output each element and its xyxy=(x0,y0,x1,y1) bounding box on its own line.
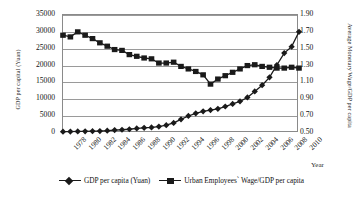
data-point xyxy=(75,128,81,134)
data-point xyxy=(134,54,140,59)
y-tick-left: 5000 xyxy=(19,111,55,119)
data-point xyxy=(112,47,118,52)
data-point xyxy=(104,128,110,134)
data-point xyxy=(82,128,88,134)
data-point xyxy=(259,64,265,69)
legend-item-gdp[interactable]: GDP per capita (Yuan) xyxy=(59,176,150,185)
y-tick-right: 1.10 xyxy=(300,77,330,85)
data-point xyxy=(89,128,95,134)
legend-label-wage-ratio: Urban Employees` Wage/GDP per capita xyxy=(184,176,304,185)
data-point xyxy=(178,116,184,122)
x-tick: 1986 xyxy=(130,135,147,152)
data-point xyxy=(60,33,66,38)
data-point xyxy=(267,65,273,70)
x-tick: 1994 xyxy=(189,135,206,152)
data-point xyxy=(141,125,147,131)
data-point xyxy=(193,69,199,74)
y-tick-right: 0.70 xyxy=(300,111,330,119)
y-tick-left: 30000 xyxy=(19,27,55,35)
diamond-marker-icon xyxy=(59,176,81,185)
x-tick: 1980 xyxy=(86,135,103,152)
data-point xyxy=(104,44,110,49)
data-point xyxy=(200,108,206,114)
data-point xyxy=(207,107,213,113)
data-point xyxy=(149,56,155,61)
x-tick: 2004 xyxy=(263,135,280,152)
x-tick: 2000 xyxy=(234,135,251,152)
data-point xyxy=(119,48,125,53)
y-tick-left: 0 xyxy=(19,128,55,136)
y-tick-left: 35000 xyxy=(19,10,55,18)
data-point xyxy=(222,73,228,78)
data-point xyxy=(126,126,132,132)
legend-item-wage-ratio[interactable]: Urban Employees` Wage/GDP per capita xyxy=(159,176,304,185)
y-tick-right: 1.90 xyxy=(300,10,330,18)
x-tick: 1982 xyxy=(101,135,118,152)
data-point xyxy=(289,65,295,70)
x-axis-title: Year xyxy=(311,161,324,169)
y-tick-right: 1.70 xyxy=(300,27,330,35)
x-tick: 1990 xyxy=(160,135,177,152)
data-point xyxy=(60,129,66,135)
data-point xyxy=(141,55,147,60)
data-point xyxy=(230,101,236,107)
y-tick-left: 10000 xyxy=(19,94,55,102)
x-tick: 1998 xyxy=(219,135,236,152)
data-point xyxy=(237,98,243,104)
data-point xyxy=(215,106,221,112)
data-point xyxy=(97,128,103,134)
x-tick: 1992 xyxy=(175,135,192,152)
data-point xyxy=(75,29,81,34)
data-point xyxy=(67,128,73,134)
legend-label-gdp: GDP per capita (Yuan) xyxy=(84,176,150,185)
data-point xyxy=(90,36,96,41)
data-point xyxy=(97,40,103,45)
plot-area xyxy=(62,14,298,132)
data-point xyxy=(163,122,169,128)
data-point xyxy=(185,113,191,119)
data-point xyxy=(178,64,184,69)
data-point xyxy=(68,34,74,39)
x-tick: 2008 xyxy=(293,135,310,152)
data-point xyxy=(156,124,162,130)
data-point xyxy=(252,62,258,67)
series-layer xyxy=(63,15,299,133)
y-tick-left: 25000 xyxy=(19,44,55,52)
data-point xyxy=(156,60,162,65)
data-point xyxy=(245,63,251,68)
y-tick-right: 1.30 xyxy=(300,61,330,69)
y-tick-left: 20000 xyxy=(19,61,55,69)
data-point xyxy=(193,110,199,116)
data-point xyxy=(281,66,287,71)
data-point xyxy=(171,120,177,126)
data-point xyxy=(222,103,228,109)
data-point xyxy=(296,66,302,71)
x-tick: 1988 xyxy=(145,135,162,152)
y-axis-right-title: Average Monetary Wage/GDP per capita xyxy=(347,21,354,131)
data-point xyxy=(134,125,140,131)
x-tick: 2002 xyxy=(248,135,265,152)
y-tick-left: 15000 xyxy=(19,77,55,85)
data-point xyxy=(82,33,88,38)
data-point xyxy=(200,72,206,77)
data-point xyxy=(186,66,192,71)
series-line-2 xyxy=(63,32,299,84)
x-tick: 1978 xyxy=(71,135,88,152)
chart-container: GDP per capital (Yuan) Average Monetary … xyxy=(0,0,363,198)
data-point xyxy=(274,66,280,71)
data-point xyxy=(163,60,169,65)
data-point xyxy=(127,52,133,57)
x-tick: 1996 xyxy=(204,135,221,152)
data-point xyxy=(215,76,221,81)
data-point xyxy=(237,66,243,71)
data-point xyxy=(171,60,177,65)
square-marker-icon xyxy=(159,176,181,185)
x-tick: 2006 xyxy=(278,135,295,152)
y-tick-right: 0.90 xyxy=(300,94,330,102)
data-point xyxy=(148,124,154,130)
y-tick-right: 0.50 xyxy=(300,128,330,136)
data-point xyxy=(112,127,118,133)
data-point xyxy=(119,127,125,133)
x-tick: 1984 xyxy=(116,135,133,152)
data-point xyxy=(208,82,214,87)
